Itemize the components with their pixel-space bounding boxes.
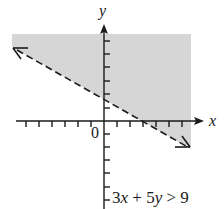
shaded-region — [12, 34, 191, 149]
x-axis-label: x — [208, 112, 216, 129]
inequality-label: 3x + 5y > 9 — [112, 188, 189, 207]
inequality-graph: y x 0 3x + 5y > 9 — [0, 0, 224, 209]
origin-label: 0 — [91, 124, 99, 141]
y-axis-label: y — [97, 2, 107, 20]
